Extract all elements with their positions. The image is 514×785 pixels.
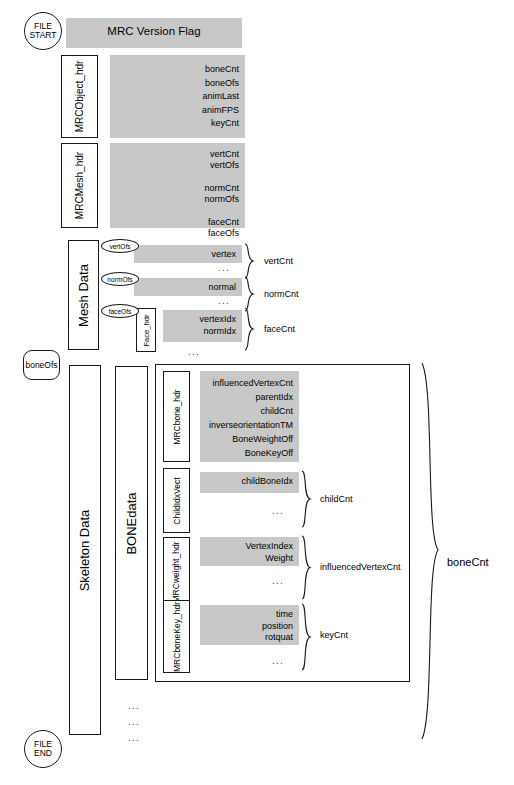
face-block: vertexIdx normIdx — [163, 310, 242, 342]
bone-header-label: MRCbone_hdr — [172, 389, 182, 444]
child-idx-vect-label: ChildIdxVect — [172, 477, 182, 524]
vert-ofs-label: vertOfs — [109, 243, 130, 250]
file-end-marker: FILE END — [24, 730, 62, 768]
weight-header-label: MRCweight_hdr — [172, 541, 182, 602]
bone-key-header-fields: time position rotquat — [262, 609, 293, 644]
skeleton-data-label: Skeleton Data — [78, 509, 93, 591]
mesh-header-block: vertCnt vertOfs normCnt normOfs faceCnt … — [110, 143, 245, 228]
normal-ellipsis: ... — [218, 295, 230, 306]
mesh-data-label-wrap: Mesh Data — [68, 240, 99, 350]
bone-count-label: boneCnt — [447, 556, 489, 568]
bone-data-label: BONEdata — [124, 492, 139, 554]
face-count-brace — [243, 307, 257, 351]
repeat-ellipsis-3: ... — [128, 732, 140, 743]
weight-header-fields: VertexIndex Weight — [245, 541, 293, 564]
bone-header-block: influencedVertexCnt parentIdx childCnt i… — [200, 371, 299, 462]
mesh-header-label: MRCMesh_hdr — [74, 152, 85, 219]
vertex-block: vertex — [134, 245, 242, 263]
normal-label: normal — [208, 282, 236, 294]
bone-header-label-box: MRCbone_hdr — [163, 371, 190, 462]
mesh-header-fields: vertCnt vertOfs normCnt normOfs faceCnt … — [204, 149, 239, 239]
face-count-label: faceCnt — [264, 324, 295, 334]
bone-key-header-ellipsis: ... — [272, 655, 284, 666]
version-flag-label: MRC Version Flag — [66, 26, 242, 38]
face-header-label: Face_hdr — [142, 314, 151, 346]
bone-ofs-label: boneOfs — [25, 360, 57, 370]
child-idx-vect-label-box: ChildIdxVect — [163, 468, 190, 533]
file-end-line2: END — [34, 749, 52, 759]
object-header-fields: boneCnt boneOfs animLast animFPS keyCnt — [202, 63, 239, 131]
influenced-vertex-count-label: influencedVertexCnt — [320, 562, 401, 572]
vert-ofs-marker: vertOfs — [101, 239, 139, 253]
weight-header-label-box: MRCweight_hdr — [163, 537, 190, 606]
weight-header-ellipsis: ... — [272, 575, 284, 586]
vertex-label: vertex — [211, 249, 236, 261]
mesh-header-label-box: MRCMesh_hdr — [61, 143, 98, 228]
bone-key-header-block: time position rotquat — [200, 605, 299, 645]
vert-count-label: vertCnt — [264, 256, 293, 266]
mesh-data-label: Mesh Data — [76, 264, 91, 327]
file-start-marker: FILE START — [24, 12, 62, 50]
face-ofs-marker: faceOfs — [101, 304, 139, 318]
face-ellipsis: ... — [188, 346, 200, 357]
bone-ofs-marker: boneOfs — [23, 350, 60, 380]
repeat-ellipsis-1: ... — [128, 700, 140, 711]
key-count-brace — [300, 603, 314, 671]
face-ofs-label: faceOfs — [109, 308, 132, 315]
child-count-brace — [300, 470, 314, 528]
child-count-label: childCnt — [320, 494, 353, 504]
influenced-vertex-count-brace — [300, 535, 314, 600]
version-flag-block: MRC Version Flag — [66, 18, 242, 48]
face-header-label-box: Face_hdr — [136, 308, 156, 352]
vert-count-brace — [243, 243, 257, 279]
bone-header-fields: influencedVertexCnt parentIdx childCnt i… — [209, 376, 293, 460]
object-header-label: MRCObject_hdr — [74, 61, 85, 133]
mrc-file-format-diagram: FILE START MRC Version Flag MRCObject_hd… — [0, 0, 514, 785]
repeat-ellipsis-2: ... — [128, 716, 140, 727]
bone-key-header-label: MRCboneKey_hdr — [172, 602, 182, 672]
object-header-block: boneCnt boneOfs animLast animFPS keyCnt — [110, 55, 245, 138]
bone-data-label-wrap: BONEdata — [115, 366, 148, 680]
bone-key-header-label-box: MRCboneKey_hdr — [163, 600, 190, 673]
normal-block: normal — [134, 278, 242, 296]
skeleton-data-label-wrap: Skeleton Data — [69, 365, 101, 735]
child-idx-vect-fields: childBoneIdx — [241, 476, 293, 488]
object-header-label-box: MRCObject_hdr — [61, 55, 98, 138]
norm-count-label: normCnt — [264, 289, 299, 299]
child-idx-vect-ellipsis: ... — [272, 505, 284, 516]
norm-ofs-marker: normOfs — [101, 272, 139, 286]
weight-header-block: VertexIndex Weight — [200, 537, 299, 566]
key-count-label: keyCnt — [320, 630, 348, 640]
file-start-line2: START — [29, 31, 56, 41]
child-idx-vect-block: childBoneIdx — [200, 472, 299, 493]
norm-ofs-label: normOfs — [107, 276, 132, 283]
vertex-ellipsis: ... — [218, 262, 230, 273]
face-fields: vertexIdx normIdx — [199, 314, 236, 337]
bone-count-brace — [418, 362, 444, 740]
